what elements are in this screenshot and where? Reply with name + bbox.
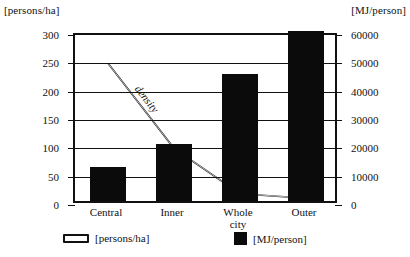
left-axis-tick-label: 200 [13,86,59,98]
left-axis-tick-label: 150 [13,114,59,126]
right-axis-tick-label: 60000 [351,29,379,41]
x-axis-category-label: Central [90,206,122,218]
left-axis-tick-label: 100 [13,142,59,154]
x-axis-category-label: Outer [291,206,316,218]
right-axis-tick [335,205,342,206]
right-axis-tick-label: 50000 [351,57,379,69]
chart-legend: [persons/ha] [MJ/person] [0,232,410,254]
left-axis-tick [68,35,75,36]
legend-label-mj-per-person: [MJ/person] [253,233,307,245]
x-axis-label-line1: Central [90,206,122,218]
right-axis-tick-label: 0 [351,199,357,211]
legend-item-mj-per-person: [MJ/person] [234,232,307,245]
x-axis-category-label: Wholecity [223,206,252,230]
bar [222,74,258,202]
right-axis-tick [335,63,342,64]
bar [156,144,192,201]
open-rectangle-swatch-icon [63,234,89,243]
bar [288,31,324,201]
chart-container: [persons/ha] [MJ/person] 005010000100200… [0,0,410,257]
left-axis-tick [68,63,75,64]
right-axis-tick [335,35,342,36]
x-axis-label-line1: Outer [291,206,316,218]
left-axis-tick-label: 300 [13,29,59,41]
x-axis-label-line1: Inner [160,206,183,218]
left-axis-tick-label: 250 [13,57,59,69]
left-axis-tick [68,205,75,206]
x-axis-label-line1: Whole [223,206,252,218]
x-axis-label-line2: city [223,218,252,230]
left-axis-tick-label: 0 [13,199,59,211]
left-axis-tick [68,92,75,93]
right-axis-tick-label: 20000 [351,142,379,154]
right-axis-tick [335,148,342,149]
right-axis-tick [335,92,342,93]
right-axis-tick-label: 10000 [351,171,379,183]
x-axis-category-label: Inner [160,206,183,218]
solid-square-swatch-icon [234,232,247,245]
bar [90,167,126,201]
right-axis-tick-label: 40000 [351,86,379,98]
legend-item-persons-per-ha: [persons/ha] [63,232,149,244]
left-axis-tick-label: 50 [13,171,59,183]
plot-area: 0050100001002000015030000200400002505000… [73,33,337,203]
left-axis-title: [persons/ha] [4,4,60,16]
right-axis-tick-label: 30000 [351,114,379,126]
left-axis-tick [68,177,75,178]
right-axis-tick [335,120,342,121]
right-axis-title: [MJ/person] [351,4,406,16]
legend-label-persons-per-ha: [persons/ha] [95,232,149,244]
right-axis-tick [335,177,342,178]
left-axis-tick [68,120,75,121]
left-axis-tick [68,148,75,149]
